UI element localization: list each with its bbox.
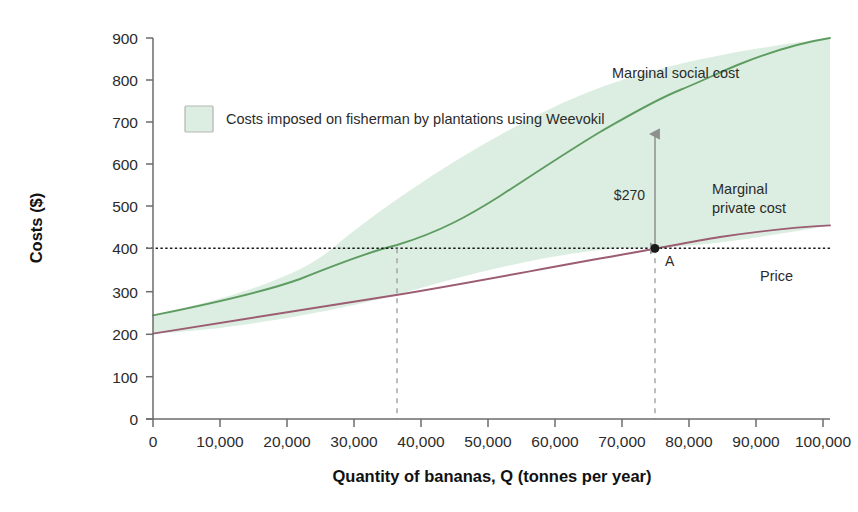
- y-tick-200: 200: [112, 326, 138, 343]
- x-axis-title: Quantity of bananas, Q (tonnes per year): [332, 467, 651, 485]
- point-a-label: A: [665, 253, 675, 269]
- x-tick-100000: 100,000: [795, 433, 851, 450]
- point-a-marker: [651, 244, 660, 253]
- y-tick-700: 700: [112, 114, 138, 131]
- y-tick-800: 800: [112, 72, 138, 89]
- x-tick-50000: 50,000: [464, 433, 512, 450]
- marginal-social-cost-label: Marginal social cost: [612, 65, 739, 81]
- y-tick-0: 0: [129, 411, 138, 428]
- x-tick-0: 0: [149, 433, 158, 450]
- y-tick-400: 400: [112, 240, 138, 257]
- legend-label: Costs imposed on fisherman by plantation…: [226, 111, 605, 127]
- y-axis-ticks: [146, 38, 153, 419]
- y-tick-500: 500: [112, 198, 138, 215]
- x-tick-30000: 30,000: [330, 433, 378, 450]
- x-tick-40000: 40,000: [397, 433, 445, 450]
- x-tick-90000: 90,000: [732, 433, 780, 450]
- price-label: Price: [760, 268, 793, 284]
- x-axis-ticks: [153, 419, 823, 427]
- y-axis-title: Costs ($): [27, 193, 45, 264]
- chart-svg: $270 A 0 100 200 300 400 500 600 700: [0, 0, 858, 512]
- y-tick-900: 900: [112, 30, 138, 47]
- y-axis-tick-labels: 0 100 200 300 400 500 600 700 800 900: [112, 30, 138, 428]
- y-tick-600: 600: [112, 156, 138, 173]
- x-tick-20000: 20,000: [263, 433, 311, 450]
- marginal-private-cost-label-line1: Marginal: [712, 181, 768, 197]
- externality-cost-chart: $270 A 0 100 200 300 400 500 600 700: [0, 0, 858, 512]
- x-tick-70000: 70,000: [598, 433, 646, 450]
- marginal-private-cost-label-line2: private cost: [712, 200, 786, 216]
- y-tick-300: 300: [112, 284, 138, 301]
- x-axis-tick-labels: 0 10,000 20,000 30,000 40,000 50,000 60,…: [149, 433, 852, 450]
- x-tick-10000: 10,000: [196, 433, 244, 450]
- y-tick-100: 100: [112, 369, 138, 386]
- x-tick-80000: 80,000: [665, 433, 713, 450]
- x-tick-60000: 60,000: [531, 433, 579, 450]
- gap-value-label: $270: [614, 187, 645, 203]
- legend-swatch: [185, 106, 213, 132]
